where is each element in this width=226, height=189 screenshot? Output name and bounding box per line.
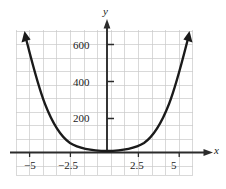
y-axis [104, 19, 111, 153]
x-tick-label-neg2-5: −2.5 [58, 160, 78, 171]
y-tick-label-400: 400 [73, 77, 90, 88]
y-tick-label-600: 600 [73, 40, 90, 51]
x-tick-label-2-5: 2.5 [130, 160, 144, 171]
y-tick-label-200: 200 [73, 113, 90, 124]
curve-left-arrowhead [22, 31, 31, 43]
graph-figure: y x 600 400 200 −5 −2.5 2.5 5 [0, 0, 226, 189]
y-axis-label: y [103, 6, 108, 17]
x-axis-label: x [214, 145, 219, 156]
y-axis-ticks [107, 45, 114, 119]
curve-right-arrowhead [183, 31, 192, 43]
x-tick-label-neg5: −5 [24, 160, 36, 171]
x-tick-label-5: 5 [171, 160, 177, 171]
